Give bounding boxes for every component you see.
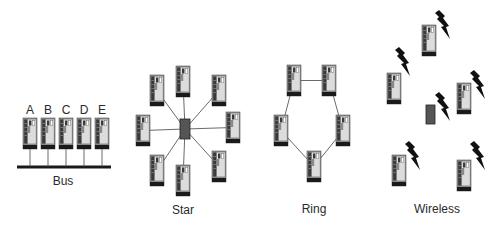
wireless-computer-icon [387,73,401,104]
bus-node-label-a: A [26,104,34,116]
bus-computer-icon [41,118,55,149]
bus-computer-icon [95,118,109,149]
star-hub-icon [180,119,190,139]
wireless-computer-icon [457,83,471,114]
wireless-signal-icon [435,92,450,121]
bus-node-label-c: C [62,104,71,116]
bus-computer-icon [59,118,73,149]
wireless-computer-icon [457,160,471,191]
bus-node-label-e: E [98,104,106,116]
star-computer-icon [176,165,190,196]
bus-node-label-b: B [44,104,52,116]
wireless-access-point-icon [426,105,435,124]
star-label: Star [172,204,194,216]
star-computer-icon [150,75,164,106]
wireless-signal-icon [395,47,410,76]
star-computer-icon [212,151,226,182]
wireless-label: Wireless [414,203,460,215]
network-topologies-diagram: Bus Star Ring Wireless A B C D E [0,0,498,227]
star-computer-icon [226,112,240,143]
wireless-signal-icon [435,10,450,39]
wireless-computer-icon [392,155,406,186]
bus-backbone [17,166,111,169]
wireless-signal-icon [470,141,485,170]
star-computer-icon [150,155,164,186]
ring-computer-icon [307,151,321,182]
ring-computer-icon [287,65,301,96]
diagram-canvas [0,0,498,227]
ring-computer-icon [322,65,336,96]
wireless-signal-icon [405,141,420,170]
bus-node-label-d: D [80,104,89,116]
ring-computer-icon [336,115,350,146]
ring-computer-icon [274,115,288,146]
star-computer-icon [176,66,190,97]
ring-label: Ring [302,203,327,215]
wireless-signal-icon [470,70,485,99]
star-computer-icon [212,75,226,106]
wireless-computer-icon [422,25,436,56]
bus-computer-icon [23,118,37,149]
bus-label: Bus [53,175,74,187]
bus-computer-icon [77,118,91,149]
star-computer-icon [136,115,150,146]
